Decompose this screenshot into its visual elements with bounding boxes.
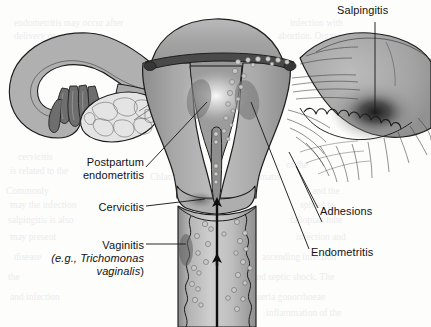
label-postpartum-line1: Postpartum bbox=[0, 156, 144, 169]
label-adhesions-text: Adhesions bbox=[320, 205, 372, 217]
label-vaginitis-eg: (e.g., bbox=[51, 252, 80, 264]
label-vaginitis-species1: Trichomonas bbox=[80, 252, 144, 264]
label-cervicitis: Cervicitis bbox=[0, 201, 144, 214]
label-endometritis: Endometritis bbox=[311, 246, 373, 259]
label-vaginitis-line2: (e.g., Trichomonas bbox=[0, 252, 144, 265]
leader-adhesions-2 bbox=[296, 166, 322, 222]
left-adnexa bbox=[9, 33, 164, 149]
label-vaginitis: Vaginitis (e.g., Trichomonas vaginalis) bbox=[0, 239, 144, 278]
figure-container: endometritis may occur afterinfection wi… bbox=[0, 0, 431, 327]
vaginitis-shading bbox=[179, 234, 193, 266]
label-vaginitis-species2: vaginalis bbox=[97, 265, 141, 277]
label-cervicitis-text: Cervicitis bbox=[98, 201, 144, 213]
label-salpingitis-text: Salpingitis bbox=[337, 4, 388, 16]
uterus bbox=[143, 19, 296, 214]
label-endometritis-text: Endometritis bbox=[311, 246, 373, 258]
label-vaginitis-line1: Vaginitis bbox=[0, 239, 144, 252]
label-vaginitis-line3: vaginalis) bbox=[0, 265, 144, 278]
label-vaginitis-close: ) bbox=[140, 265, 144, 277]
label-adhesions: Adhesions bbox=[320, 205, 372, 218]
vaginal-canal bbox=[178, 202, 256, 327]
right-adnexa-inflamed bbox=[287, 33, 431, 182]
label-salpingitis: Salpingitis bbox=[337, 4, 388, 17]
label-postpartum-endometritis: Postpartum endometritis bbox=[0, 156, 144, 182]
label-postpartum-line2: endometritis bbox=[0, 169, 144, 182]
left-uterine-horn-opening bbox=[144, 62, 156, 71]
peritoneal-bands bbox=[300, 141, 370, 174]
